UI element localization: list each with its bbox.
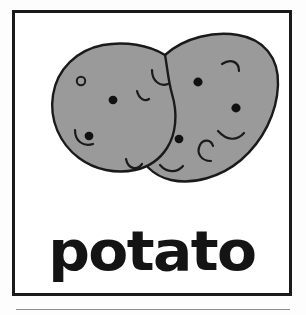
- potato-eye-dot: [175, 135, 184, 143]
- flashcard: potato: [12, 10, 292, 296]
- bottom-divider: [16, 309, 290, 310]
- potato-eye-dot: [231, 104, 240, 113]
- word-label: potato: [48, 224, 255, 279]
- flashcard-page: potato: [0, 0, 306, 315]
- word-area: potato: [15, 209, 289, 293]
- potato-eye-dot: [85, 132, 94, 140]
- potato-eye-dot: [109, 96, 118, 104]
- potato-eye-dot: [193, 78, 202, 87]
- potato-illustration: [15, 13, 289, 203]
- potato-drawing: [15, 13, 289, 203]
- potato-left-body: [52, 43, 175, 171]
